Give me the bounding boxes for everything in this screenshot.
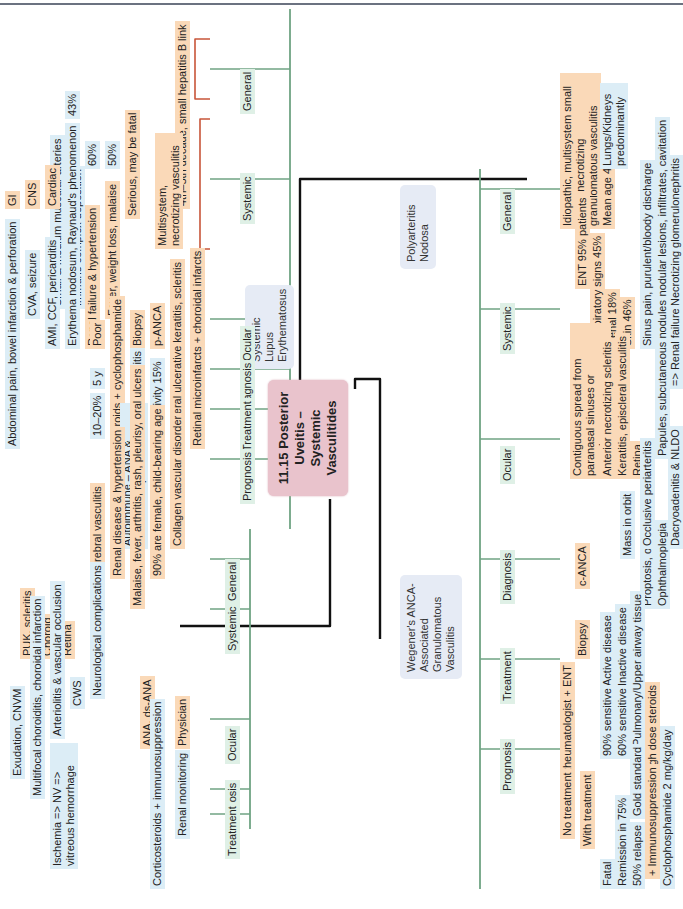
wegener-treatment-item: Rheumatologist + ENT — [560, 662, 575, 779]
wegener-systemic-sub: Sinus pain, purulent/bloody discharge — [640, 160, 655, 349]
pan-ocular-item: Retinal microinfarcts + choroidal infarc… — [190, 248, 205, 449]
disease-polyarteritis-nodosa: Polyarteritis Nodosa — [400, 185, 436, 269]
disease-label: Wegener's ANCA-Associated Granulomatous … — [405, 583, 456, 672]
connector — [195, 39, 210, 99]
category-label-ocular: Ocular — [225, 726, 240, 764]
pan-systemic-sub: Abdominal pain, bowel infarction & perfo… — [5, 219, 20, 449]
wegener-diagnosis-sub: Gold standard — [630, 744, 645, 819]
wegener-ocular-sub: Occlusive periarteritis — [640, 438, 655, 549]
pan-systemic-sub: CVA, seizure — [25, 250, 40, 319]
wegener-diagnosis-sub: Pulmonary/Upper airway tissue — [630, 591, 645, 749]
pan-systemic-sub: 60% — [85, 141, 100, 169]
wegener-ocular-item: Anterior necrotizing scleritis — [600, 339, 615, 480]
category-label-treatment: Treatment — [225, 803, 240, 859]
wegener-systemic-sub: => Renal failure — [668, 305, 683, 389]
sle-general-item: Collagen vascular disorder — [170, 413, 185, 549]
wegener-ocular-item: Keratitis, episcleral vasculitis — [615, 333, 630, 479]
sle-systemic-item: Malaise, fever, arthritis, rash, pleuris… — [130, 365, 145, 609]
wegener-systemic-item: ENT 95% patients — [575, 195, 590, 289]
category-label-systemic: Systemic — [240, 173, 255, 224]
pan-systemic-sub: 50% — [105, 141, 120, 169]
pan-systemic-sub: AMI, CCF, pericarditis — [45, 237, 60, 349]
category-label-prognosis: Prognosis — [240, 449, 255, 504]
sle-treatment-sub: Renal monitoring — [175, 750, 190, 839]
sle-treatment-sub: Corticosteroids + immunosuppression — [150, 699, 165, 889]
sle-ocular-sub: Ischemia => NV => vitreous hemorrhage — [50, 743, 78, 869]
category-label-treatment: Treatment — [500, 648, 515, 704]
wegener-diagnosis-sub: Active disease — [600, 612, 615, 689]
disease-label: Polyarteritis Nodosa — [405, 205, 430, 262]
category-label-prognosis: Prognosis — [500, 739, 515, 794]
pan-diagnosis-item: Biopsy — [130, 310, 145, 349]
central-topic: 11.15 Posterior Uveitis – Systemic Vascu… — [268, 380, 348, 496]
wegener-diagnosis-item: c-ANCA — [575, 543, 590, 589]
wegener-diagnosis-sub: 90% sensitive — [600, 685, 615, 759]
category-label-ocular: Ocular — [500, 446, 515, 484]
pan-prognosis-item: Poor — [90, 320, 105, 349]
sle-ocular-sub: CWS — [70, 677, 85, 709]
wegener-diagnosis-sub: 60% sensitive — [615, 685, 630, 759]
wegener-ocular-sub: Mass in orbit — [620, 491, 635, 559]
pan-systemic-item: GI — [5, 191, 20, 209]
sle-ocular-sub: Arteriolitis & vascular occlusion — [50, 581, 65, 739]
pan-systemic-sub: 43% — [65, 91, 80, 119]
wegener-diagnosis-sub: Inactive disease — [615, 604, 630, 689]
category-label-systemic: Systemic — [500, 303, 515, 354]
trunk-pan — [180, 499, 330, 626]
pan-prognosis-sub: 5 y — [90, 368, 105, 389]
wegener-prognosis-sub: Remission in 75% — [615, 795, 630, 889]
sle-ocular-sub: Exudation, CNVM — [10, 686, 25, 779]
pan-general-item: Multisystem, necrotizing vasculitis — [155, 133, 183, 249]
pan-general-item: Serious, may be fatal — [125, 110, 140, 219]
sle-general-item: 90% are female, child-bearing age — [150, 405, 165, 579]
wegener-general-sub: Lungs/Kidneys predominantly — [600, 83, 628, 169]
sle-ocular-sub: Multifocal choroiditis, choroidal infarc… — [30, 596, 45, 799]
mind-map-canvas: 11.15 Posterior Uveitis – Systemic Vascu… — [0, 0, 683, 909]
category-label-general: General — [500, 189, 515, 234]
category-label-ocular: Ocular — [240, 326, 255, 364]
wegener-systemic-sub: Necrotizing glomerulonephritis — [668, 155, 683, 309]
sle-systemic-sub: Neurological complications — [90, 562, 105, 699]
wegener-treatment-sub: Cyclophosphamide 2 mg/kg/day — [660, 726, 675, 889]
pan-diagnosis-item: p-ANCA — [150, 303, 165, 349]
disease-wegener: Wegener's ANCA-Associated Granulomatous … — [400, 575, 462, 679]
category-label-general: General — [240, 69, 255, 114]
disease-label: Systemic Lupus Erythematosus — [250, 289, 288, 362]
wegener-prognosis-item: No treatment — [560, 769, 575, 839]
wegener-prognosis-item: With treatment — [580, 771, 595, 849]
sle-systemic-item: Renal disease & hypertension — [110, 427, 125, 579]
connector — [200, 119, 210, 249]
wegener-diagnosis-item: Biopsy — [575, 620, 590, 659]
central-topic-title: 11.15 Posterior Uveitis – Systemic Vascu… — [276, 392, 339, 485]
category-label-treatment: Treatment — [240, 398, 255, 454]
category-label-general: General — [225, 559, 240, 604]
trunk-wegener — [355, 379, 380, 639]
wegener-prognosis-sub: 50% relapse — [630, 822, 645, 889]
wegener-treatment-item: + Immunosuppression — [645, 764, 660, 879]
wegener-ocular-sub: Dacryoadenitis & NLDO — [668, 426, 683, 549]
wegener-prognosis-sub: Fatal — [600, 859, 615, 889]
category-label-diagnosis: Diagnosis — [500, 550, 515, 604]
pan-systemic-sub: Erythema nodosum, Raynaud's phenomenon — [65, 123, 80, 349]
pan-prognosis-sub: 10–20% — [90, 393, 105, 439]
pan-systemic-item: CNS — [25, 180, 40, 209]
pan-systemic-item: Cardiac — [45, 165, 60, 209]
category-label-systemic: Systemic — [225, 603, 240, 654]
sle-treatment-item: Physician — [175, 696, 190, 749]
